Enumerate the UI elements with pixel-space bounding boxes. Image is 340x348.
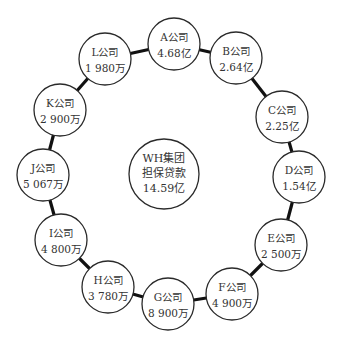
node-name: K公司 — [46, 97, 74, 109]
node-circle — [82, 261, 134, 313]
node-company-h: H公司3 780万 — [82, 261, 134, 313]
node-circle — [35, 214, 87, 266]
node-company-g: G公司8 900万 — [142, 278, 194, 330]
node-circle — [255, 219, 307, 271]
node-name: E公司 — [267, 232, 295, 244]
node-company-k: K公司2 900万 — [34, 84, 86, 136]
node-name: D公司 — [285, 164, 313, 176]
node-name: C公司 — [268, 104, 296, 116]
node-company-b: B公司2.64亿 — [210, 32, 262, 84]
node-company-f: F公司4 900万 — [206, 268, 258, 320]
node-value: 1 980万 — [85, 62, 125, 74]
node-circle — [256, 91, 308, 143]
node-name: I公司 — [49, 227, 73, 239]
node-value: 4 800万 — [41, 243, 81, 255]
node-value: 8 900万 — [148, 307, 188, 319]
node-circle — [34, 84, 86, 136]
node-company-l: L公司1 980万 — [79, 33, 131, 85]
node-value: 1.54亿 — [282, 180, 315, 192]
node-circle — [79, 33, 131, 85]
node-company-d: D公司1.54亿 — [273, 151, 325, 203]
center-node: WH集团 担保贷款 14.59亿 — [129, 139, 199, 209]
node-company-a: A公司4.68亿 — [148, 18, 200, 70]
node-name: J公司 — [30, 162, 55, 174]
node-circle — [142, 278, 194, 330]
node-circle — [273, 151, 325, 203]
node-company-e: E公司2 500万 — [255, 219, 307, 271]
node-value: 2.25亿 — [265, 120, 298, 132]
node-circle — [206, 268, 258, 320]
center-label-line-3: 14.59亿 — [143, 182, 186, 195]
node-company-i: I公司4 800万 — [35, 214, 87, 266]
node-name: A公司 — [159, 31, 188, 43]
node-name: L公司 — [92, 46, 119, 58]
node-circle — [17, 149, 69, 201]
node-name: F公司 — [218, 281, 245, 293]
node-value: 4.68亿 — [157, 47, 190, 59]
node-company-c: C公司2.25亿 — [256, 91, 308, 143]
node-value: 2.64亿 — [219, 61, 252, 73]
node-name: B公司 — [222, 45, 250, 57]
node-circle — [148, 18, 200, 70]
center-label-line-2: 担保贷款 — [142, 166, 186, 180]
node-value: 3 780万 — [88, 290, 128, 302]
node-value: 4 900万 — [212, 297, 252, 309]
node-value: 2 900万 — [40, 113, 80, 125]
node-circle — [210, 32, 262, 84]
node-company-j: J公司5 067万 — [17, 149, 69, 201]
node-name: H公司 — [93, 274, 122, 286]
center-label-line-1: WH集团 — [143, 151, 186, 165]
node-name: G公司 — [154, 291, 182, 303]
node-value: 5 067万 — [23, 178, 63, 190]
guarantee-ring-diagram: A公司4.68亿B公司2.64亿C公司2.25亿D公司1.54亿E公司2 500… — [0, 0, 340, 348]
node-value: 2 500万 — [261, 248, 301, 260]
